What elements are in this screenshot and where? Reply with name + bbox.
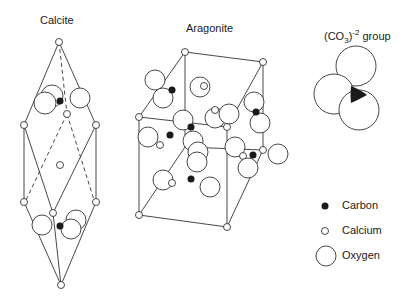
legend-oxygen-label: Oxygen (342, 249, 380, 261)
calcite-structure (21, 39, 100, 289)
aragonite-structure (136, 49, 289, 231)
legend-carbon-label: Carbon (342, 199, 378, 211)
oxygen-legend-icon (316, 246, 336, 266)
co3-group-structure (314, 46, 379, 130)
calcium-legend-icon (322, 228, 329, 235)
legend-calcium-label: Calcium (342, 224, 382, 236)
carbon-legend-icon (322, 203, 329, 210)
legend-symbols (316, 203, 336, 267)
